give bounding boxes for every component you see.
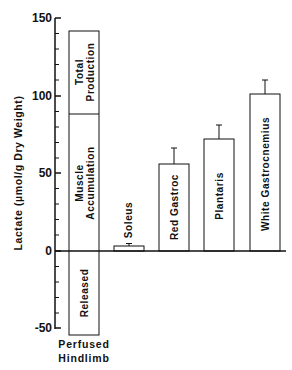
segment-muscle-label-2: Accumulation [85,146,96,219]
ytick-50: 50 [39,166,53,180]
segment-total-label-2: Production [85,43,96,102]
segment-total-label-1: Total [74,59,85,85]
red-gastroc-label: Red Gastroc [169,174,180,240]
soleus-label: Soleus [123,202,134,238]
segment-released-label: Released [79,269,90,318]
ytick-neg50: -50 [35,321,53,335]
xcat-hindlimb: Hindlimb [58,352,109,364]
ytick-150: 150 [32,11,52,25]
y-axis-label: Lactate (µmol/g Dry Weight) [12,95,24,250]
soleus-bar [114,244,144,252]
plantaris-label: Plantaris [214,172,225,220]
ytick-100: 100 [32,89,52,103]
ytick-0: 0 [45,244,52,258]
white-gastrocnemius-label: White Gastrocnemius [260,117,271,231]
xcat-perfused: Perfused [58,338,109,350]
chart: 150 100 50 0 -50 Lactate (µmol/g Dry Wei… [0,0,292,370]
segment-muscle-label-1: Muscle [74,164,85,202]
